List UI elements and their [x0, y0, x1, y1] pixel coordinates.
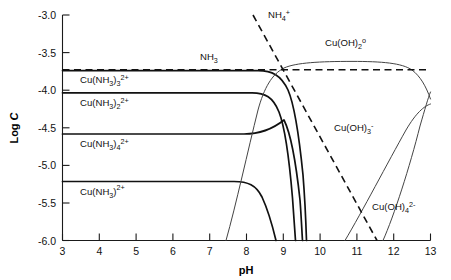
- curve-cu-nh3-2-2plus: [63, 93, 296, 241]
- y-ticklabel-4.5: -4.5: [38, 122, 56, 134]
- y-ticklabel-6.0: -6.0: [38, 235, 56, 247]
- label-cuoh2-base: Cu(OH): [325, 37, 358, 48]
- label-cunh33-sup: 2+: [121, 73, 129, 82]
- x-ticklabel-11: 11: [351, 245, 362, 257]
- y-ticklabel-3.5: -3.5: [38, 47, 56, 59]
- label-cunh34-base: Cu(NH: [80, 138, 109, 149]
- chart-canvas: -3.0 -3.5 -4.0 -4.5 -5.0 -5.5 -6.0 3 4 5: [0, 0, 451, 280]
- label-cunh32-sup: 2+: [121, 96, 129, 105]
- x-tick-labels-group: 3 4 5 6 7 8 9 10 11 12 13: [60, 245, 437, 257]
- speciation-diagram-figure: -3.0 -3.5 -4.0 -4.5 -5.0 -5.5 -6.0 3 4 5: [0, 0, 451, 280]
- y-ticklabel-3.0: -3.0: [38, 9, 56, 21]
- label-cuoh3-base: Cu(OH): [334, 122, 367, 133]
- y-axis-title: Log C: [8, 111, 20, 143]
- label-cuoh4-sup: 2-: [409, 200, 416, 209]
- label-nh3-base: NH: [200, 51, 214, 62]
- label-nh4-base: NH: [268, 9, 282, 20]
- x-ticklabel-3: 3: [60, 245, 66, 257]
- label-nh4-plus: NH4+: [268, 8, 290, 22]
- y-ticks-group: [63, 15, 70, 241]
- label-cuoh2-sup: o: [362, 36, 366, 45]
- x-ticklabel-6: 6: [170, 245, 176, 257]
- label-cu-nh3-1-2plus: Cu(NH3)2+: [80, 183, 125, 200]
- label-cu-oh-2-neutral: Cu(OH)2o: [325, 36, 366, 50]
- x-ticklabel-10: 10: [314, 245, 326, 257]
- x-ticklabel-5: 5: [133, 245, 139, 257]
- label-cu-oh-3-minus: Cu(OH)3-: [334, 121, 374, 135]
- label-cunh32-base: Cu(NH: [80, 97, 109, 108]
- x-ticklabel-13: 13: [425, 245, 437, 257]
- curve-cu-oh-4-2minus: [383, 92, 431, 241]
- label-nh4-sup: +: [286, 8, 290, 17]
- label-cuoh4-base: Cu(OH): [372, 201, 405, 212]
- y-ticklabel-4.0: -4.0: [38, 84, 56, 96]
- label-cuoh3-sup: -: [371, 121, 374, 130]
- y-tick-labels-group: -3.0 -3.5 -4.0 -4.5 -5.0 -5.5 -6.0: [38, 9, 56, 247]
- x-ticklabel-7: 7: [207, 245, 213, 257]
- y-ticklabel-5.0: -5.0: [38, 159, 56, 171]
- x-ticklabel-8: 8: [244, 245, 250, 257]
- x-ticklabel-12: 12: [388, 245, 400, 257]
- y-axis-title-italic: C: [8, 111, 20, 120]
- label-cunh33-base: Cu(NH: [80, 74, 109, 85]
- x-ticklabel-9: 9: [280, 245, 286, 257]
- label-cunh34-sup: 2+: [121, 137, 129, 146]
- label-cu-nh3-3-2plus: Cu(NH3)32+: [80, 73, 129, 87]
- svg-text:Log C: Log C: [8, 111, 20, 143]
- label-nh3: NH3: [200, 51, 218, 65]
- label-cu-nh3-2-2plus: Cu(NH3)22+: [80, 96, 129, 110]
- label-cunh31-sup: 2+: [117, 183, 125, 192]
- x-axis-title: pH: [239, 264, 254, 276]
- label-nh3-sub: 3: [214, 56, 218, 65]
- label-cu-nh3-4-2plus: Cu(NH3)42+: [80, 137, 129, 151]
- x-ticklabel-4: 4: [96, 245, 102, 257]
- y-axis-title-base: Log: [8, 120, 20, 143]
- y-ticklabel-5.5: -5.5: [38, 197, 56, 209]
- label-cunh31-base: Cu(NH: [80, 186, 109, 197]
